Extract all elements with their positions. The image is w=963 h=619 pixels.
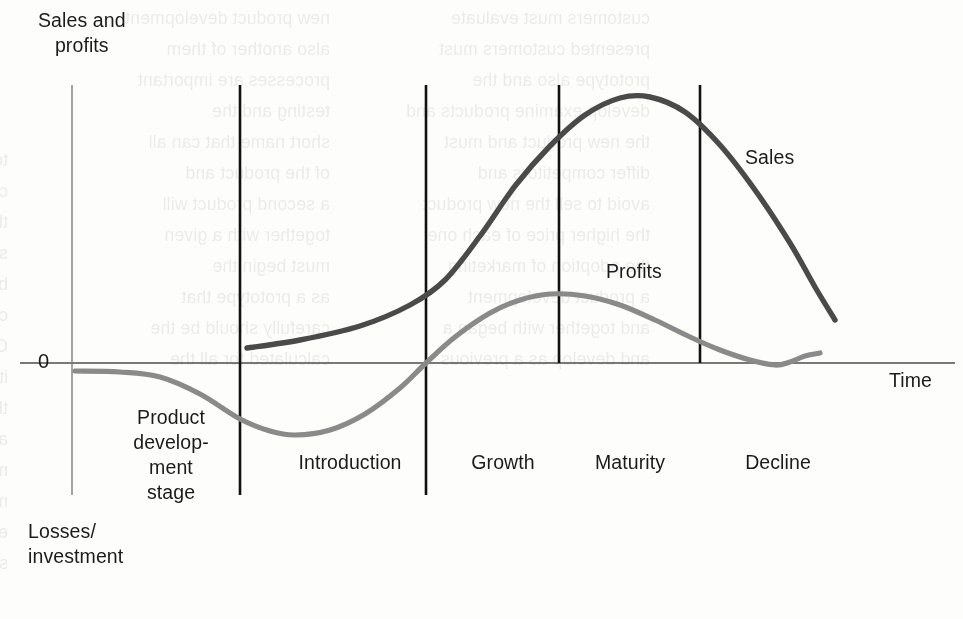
stage-label-introduction: Introduction xyxy=(275,450,425,474)
sales-curve xyxy=(247,95,835,348)
series-annotation-sales: Sales xyxy=(745,145,794,169)
stage-label-maturity: Maturity xyxy=(565,450,695,474)
product-life-cycle-figure: to the customer and thencompany must dec… xyxy=(0,0,963,619)
y-axis-top-label: Sales and profits xyxy=(38,8,126,58)
chart-canvas xyxy=(0,0,963,619)
stage-label-growth: Growth xyxy=(448,450,558,474)
y-axis-bottom-label: Losses/ investment xyxy=(28,519,123,569)
series-annotation-profits: Profits xyxy=(606,259,662,283)
stage-label-decline: Decline xyxy=(718,450,838,474)
y-axis-zero-label: 0 xyxy=(38,349,49,373)
x-axis-label: Time xyxy=(889,368,932,392)
stage-label-product-development: Product develop- ment stage xyxy=(116,405,226,505)
